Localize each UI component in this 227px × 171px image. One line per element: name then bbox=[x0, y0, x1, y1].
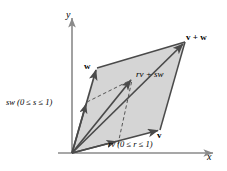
vector-parallelogram-figure: y x w v v + w rv + sw sw (0 ≤ s ≤ 1) rv … bbox=[0, 0, 227, 171]
s-range-label: sw (0 ≤ s ≤ 1) bbox=[6, 98, 52, 107]
vector-v-label: v bbox=[157, 131, 162, 140]
interior-point-label: rv + sw bbox=[136, 70, 164, 79]
y-axis-label: y bbox=[66, 10, 70, 20]
vector-v-plus-w-label: v + w bbox=[186, 33, 207, 42]
vector-w-label: w bbox=[84, 62, 91, 71]
x-axis-label: x bbox=[207, 152, 211, 162]
r-range-label: rv (0 ≤ r ≤ 1) bbox=[108, 140, 153, 149]
